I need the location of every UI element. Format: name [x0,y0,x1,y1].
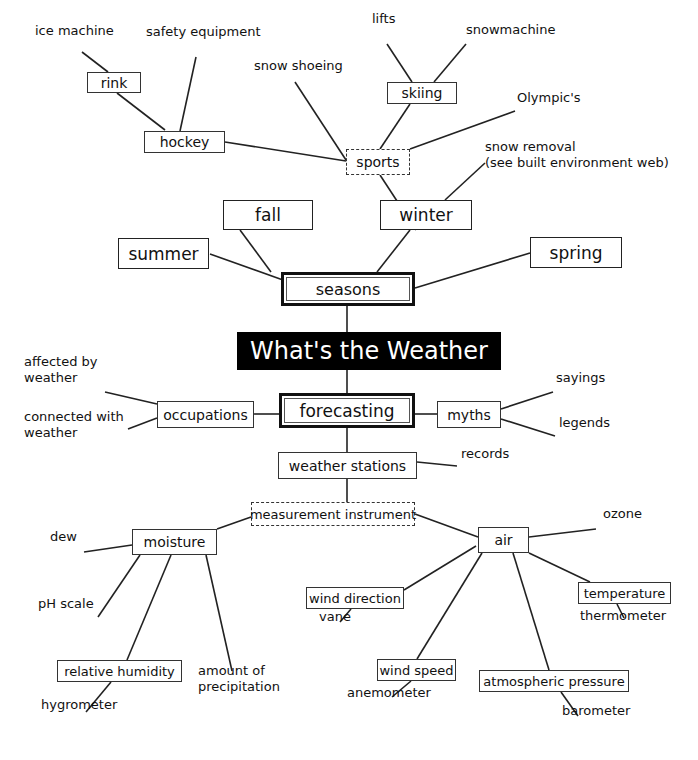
node-temperature: temperature [578,582,671,604]
label-legends: legends [559,415,610,431]
label-snow-removal: snow removal (see built environment web) [485,139,669,172]
label-dew: dew [50,529,77,545]
label-snowmachine: snowmachine [466,22,555,38]
label-thermometer: thermometer [580,608,666,624]
connector-line [434,44,466,82]
label-affected-by-weather: affected by weather [24,354,98,387]
connector-line [128,418,157,429]
node-relative-humidity: relative humidity [57,660,182,682]
connector-line [377,230,410,272]
node-moisture: moisture [132,529,217,555]
node-summer: summer [118,238,209,269]
label-anemometer: anemometer [347,685,431,701]
label-ozone: ozone [603,506,642,522]
connector-line [501,392,553,409]
connector-line [127,555,171,660]
connector-line [295,82,346,160]
connector-line [82,52,108,72]
label-records: records [461,446,509,462]
node-winter: winter [380,200,472,230]
connector-line [387,44,412,82]
node-wind-direction: wind direction [306,587,404,609]
connector-line [529,529,596,537]
connector-line [117,93,165,130]
node-skiing: skiing [387,82,457,104]
connector-line [415,253,530,288]
label-sayings: sayings [556,370,605,386]
node-title: What's the Weather [237,332,501,370]
node-fall: fall [223,200,313,230]
connector-line [380,104,410,149]
node-myths: myths [437,401,501,428]
connector-line [513,553,549,670]
label-ice-machine: ice machine [35,23,114,39]
node-weather-stations: weather stations [278,452,417,479]
connector-line [445,163,485,200]
node-measurement: measurement instrument [251,502,415,526]
node-hockey: hockey [144,131,225,153]
label-connected-with-weather: connected with weather [24,409,124,442]
node-atmospheric-pressure: atmospheric pressure [479,670,629,692]
node-air: air [478,527,529,553]
label-olympics: Olympic's [517,90,581,106]
label-barometer: barometer [562,703,630,719]
label-amount-of-precipitation: amount of precipitation [198,663,280,696]
label-lifts: lifts [372,11,395,27]
label-snow-shoeing: snow shoeing [254,58,343,74]
connector-line [180,57,196,131]
node-wind-speed: wind speed [377,659,456,681]
connector-line [105,392,157,404]
connector-line [501,419,555,436]
node-occupations: occupations [157,401,254,428]
connector-line [210,254,283,280]
connector-line [206,555,232,671]
connector-line [225,142,346,161]
node-rink: rink [87,72,141,93]
label-hygrometer: hygrometer [41,697,117,713]
node-spring: spring [530,237,622,268]
connector-line [404,546,476,590]
node-seasons: seasons [281,272,415,306]
label-vane: vane [319,609,351,625]
connector-line [415,514,478,537]
node-forecasting: forecasting [279,393,415,428]
connector-line [417,462,457,466]
label-ph-scale: pH scale [38,596,94,612]
connector-line [98,555,140,617]
label-safety-equipment: safety equipment [146,24,261,40]
connector-line [529,553,590,582]
connector-line [417,553,482,659]
connector-line [84,545,132,552]
concept-map-canvas: What's the Weatherseasonsforecastingsumm… [0,0,698,760]
connector-line [217,517,251,529]
node-sports: sports [346,149,410,175]
